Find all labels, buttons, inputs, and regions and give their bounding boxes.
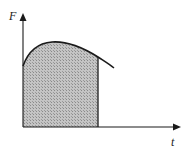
- y-axis-arrow-icon: [20, 13, 27, 21]
- x-axis-arrow-icon: [173, 124, 181, 131]
- force-time-diagram: F t: [0, 0, 192, 151]
- y-axis-label: F: [8, 9, 17, 23]
- shaded-area: [23, 42, 98, 127]
- x-axis-label: t: [171, 135, 175, 149]
